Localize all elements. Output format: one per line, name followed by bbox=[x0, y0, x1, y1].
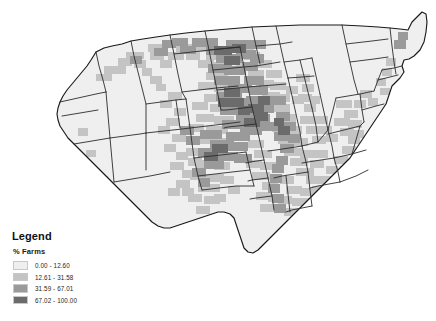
legend-item-class-3: 31.59 - 67.01 bbox=[13, 283, 130, 294]
legend-item-class-4: 67.02 - 100.00 bbox=[13, 295, 130, 306]
legend-swatch-class-1 bbox=[13, 261, 28, 270]
legend-label-class-2: 12.61 - 31.58 bbox=[35, 274, 73, 281]
legend-label-class-1: 0.00 - 12.60 bbox=[35, 262, 70, 269]
legend-item-class-2: 12.61 - 31.58 bbox=[13, 272, 130, 283]
map-legend: Legend % Farms 0.00 - 12.60 12.61 - 31.5… bbox=[10, 230, 130, 306]
map-figure-root: Legend % Farms 0.00 - 12.60 12.61 - 31.5… bbox=[0, 0, 436, 321]
legend-title: Legend bbox=[12, 230, 130, 242]
legend-swatch-class-3 bbox=[13, 284, 28, 293]
legend-subtitle: % Farms bbox=[13, 247, 130, 256]
legend-label-class-4: 67.02 - 100.00 bbox=[35, 297, 77, 304]
legend-swatch-class-2 bbox=[13, 273, 28, 282]
legend-swatch-class-4 bbox=[13, 296, 28, 305]
legend-item-class-1: 0.00 - 12.60 bbox=[13, 260, 130, 271]
legend-label-class-3: 31.59 - 67.01 bbox=[35, 285, 73, 292]
